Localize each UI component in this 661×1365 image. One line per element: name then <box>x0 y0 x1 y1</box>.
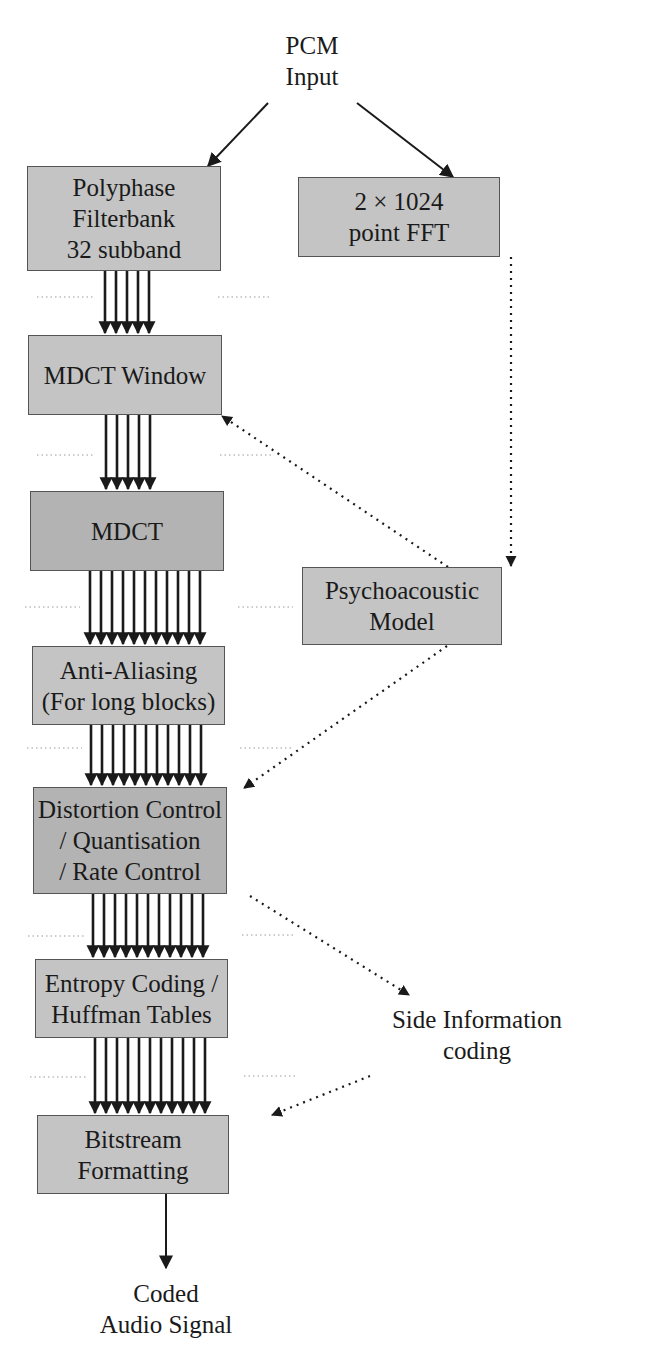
side-info-line-1: Side Information <box>362 1004 592 1035</box>
output-line-1: Coded <box>76 1278 256 1309</box>
block-label: Anti-Aliasing <box>60 655 198 686</box>
block-label: (For long blocks) <box>42 686 216 717</box>
mdct-window-block: MDCT Window <box>28 335 222 415</box>
subband-arrows-1 <box>105 271 149 333</box>
block-label: Filterbank <box>73 203 176 234</box>
side-info-line-2: coding <box>362 1035 592 1066</box>
block-label: / Rate Control <box>59 856 201 887</box>
coded-audio-signal-label: Coded Audio Signal <box>76 1278 256 1340</box>
block-label: Bitstream <box>84 1124 181 1155</box>
block-label: MDCT <box>91 516 163 547</box>
frequency-line-arrows-2 <box>91 725 201 785</box>
block-label: 2 × 1024 <box>354 186 443 217</box>
psychoacoustic-to-mdct-window-arrow <box>222 416 448 567</box>
frequency-line-arrows-4 <box>95 1038 205 1113</box>
block-label: Entropy Coding / <box>45 968 219 999</box>
block-label: Psychoacoustic <box>325 575 479 606</box>
psychoacoustic-to-distortion-arrow <box>244 646 447 788</box>
pcm-input-line-1: PCM <box>262 30 362 61</box>
anti-aliasing-block: Anti-Aliasing (For long blocks) <box>32 646 225 725</box>
block-label: Model <box>369 606 434 637</box>
block-label: 32 subband <box>67 234 182 265</box>
output-line-2: Audio Signal <box>76 1309 256 1340</box>
pcm-input-line-2: Input <box>262 61 362 92</box>
block-label: MDCT Window <box>44 360 207 391</box>
psychoacoustic-model-block: Psychoacoustic Model <box>302 567 502 645</box>
fft-block: 2 × 1024 point FFT <box>298 177 500 257</box>
entropy-coding-block: Entropy Coding / Huffman Tables <box>35 959 228 1038</box>
side-info-to-bitstream-arrow <box>272 1076 370 1115</box>
input-to-polyphase-arrow <box>208 103 268 166</box>
mdct-block: MDCT <box>30 491 224 571</box>
block-label: Polyphase <box>73 172 176 203</box>
subband-arrows-2 <box>106 415 150 489</box>
block-label: Huffman Tables <box>51 999 212 1030</box>
frequency-line-arrows-1 <box>90 571 200 644</box>
input-to-fft-arrow <box>357 103 453 177</box>
block-label: / Quantisation <box>60 825 201 856</box>
side-information-coding-label: Side Information coding <box>362 1004 592 1066</box>
pcm-input-label: PCM Input <box>262 30 362 92</box>
block-label: point FFT <box>349 217 450 248</box>
block-label: Formatting <box>77 1155 188 1186</box>
distortion-quantisation-rate-control-block: Distortion Control / Quantisation / Rate… <box>33 787 227 894</box>
distortion-to-side-info-arrow <box>250 896 409 995</box>
frequency-line-arrows-3 <box>93 894 203 957</box>
block-label: Distortion Control <box>38 794 222 825</box>
polyphase-filterbank-block: Polyphase Filterbank 32 subband <box>27 166 221 271</box>
bitstream-formatting-block: Bitstream Formatting <box>37 1115 229 1194</box>
